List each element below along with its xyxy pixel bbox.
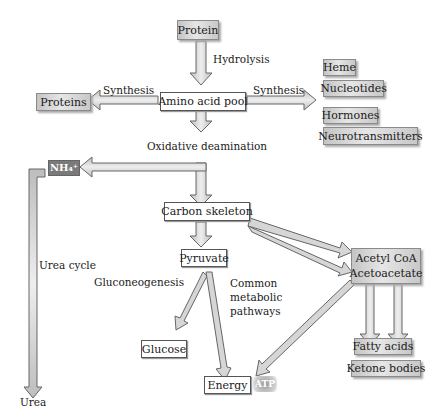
node-urea: Urea [20,396,46,409]
atp-badge-icon: ATP [253,376,277,392]
label-synthesis-right: Synthesis [253,84,304,97]
node-amino-acid-pool: Amino acid pool [160,92,246,111]
node-fatty-acids: Fatty acids [354,338,412,355]
node-pyruvate: Pyruvate [181,249,227,267]
label-gluconeogenesis: Gluconeogenesis [94,276,184,289]
node-acetyl-coa-acetoacetate: Acetyl CoA Acetoacetate [351,248,421,284]
label-oxidative-deamination: Oxidative deamination [147,140,267,153]
arrow-to-nh4 [80,157,206,177]
label-common-line-3: pathways [230,304,282,318]
arrow-deamination [190,111,212,132]
node-acetoacetate: Acetoacetate [350,266,423,281]
node-glucose: Glucose [141,340,187,358]
label-hydrolysis: Hydrolysis [213,53,270,66]
metabolism-diagram: Protein Hydrolysis Synthesis Synthesis P… [0,0,448,414]
node-acetyl-coa: Acetyl CoA [355,251,416,266]
label-common-metabolic-pathways: Common metabolic pathways [230,276,282,318]
node-proteins: Proteins [36,93,91,111]
node-hormones: Hormones [323,107,378,124]
node-nucleotides: Nucleotides [323,80,384,97]
label-common-line-2: metabolic [230,290,282,304]
node-protein: Protein [177,20,219,40]
node-energy: Energy [204,376,251,394]
arrow-to-fatty-acids [360,284,380,345]
node-ketone-bodies: Ketone bodies [351,360,421,377]
arrow-to-energy [206,272,231,380]
node-heme: Heme [323,59,356,76]
arrow-to-ketone [388,284,408,345]
label-synthesis-left: Synthesis [103,84,154,97]
arrow-to-pyruvate [190,222,212,247]
arrow-hydrolysis [190,41,212,85]
node-nh4: NH₄⁺ [48,160,80,176]
label-urea-cycle: Urea cycle [39,259,96,272]
arrow-urea-cycle [24,169,45,398]
node-carbon-skeleton: Carbon skeleton [164,202,250,221]
label-common-line-1: Common [230,276,282,290]
node-neurotransmitters: Neurotransmitters [323,127,418,145]
